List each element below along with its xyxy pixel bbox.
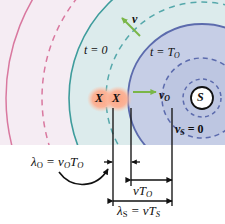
lambda-s-period-subscript: S xyxy=(156,209,160,219)
label-observer-velocity: vO xyxy=(159,89,170,103)
label-source: S xyxy=(197,91,204,103)
label-t-zero: t = 0 xyxy=(84,44,107,56)
label-t-period-main: t = T xyxy=(150,45,174,59)
label-wave-velocity: v xyxy=(132,13,137,25)
doppler-effect-figure: t = 0 t = TO v vO S vS = 0 X X λO = vOTO… xyxy=(0,0,225,224)
label-t-period: t = TO xyxy=(150,46,180,60)
label-observer-velocity-sub: O xyxy=(164,94,170,103)
lambda-o-equals: = v xyxy=(43,154,64,169)
label-t-period-sub: O xyxy=(174,51,180,60)
lambda-o-period-subscript: O xyxy=(77,160,83,170)
label-lambda-source: λS = vTS xyxy=(117,204,160,219)
lambda-o-leader-arrow xyxy=(59,169,108,184)
lambda-s-equals: = vT xyxy=(127,203,155,218)
v-T-o-main: vT xyxy=(133,183,146,198)
label-source-velocity-zero: vS = 0 xyxy=(175,123,204,137)
v-T-o-subscript: O xyxy=(146,189,152,199)
label-source-velocity-rest: = 0 xyxy=(185,122,204,136)
label-v-T-o: vTO xyxy=(133,184,152,199)
label-lambda-observed: λO = vOTO xyxy=(31,155,84,170)
figure-canvas xyxy=(0,0,225,224)
observer-mark-final: X xyxy=(112,92,120,104)
observer-mark-initial: X xyxy=(95,92,103,104)
